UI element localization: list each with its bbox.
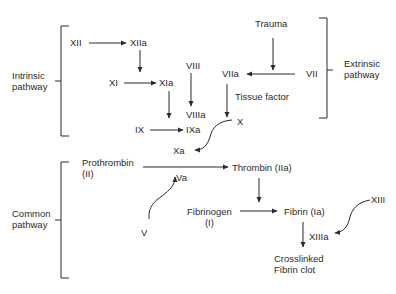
common-bracket bbox=[55, 162, 69, 278]
node-fibrin: Fibrin (Ia) bbox=[284, 206, 325, 217]
common-pathway-label: Common pathway bbox=[12, 208, 51, 230]
node-crosslinked-fibrin-clot: Crosslinked Fibrin clot bbox=[274, 253, 324, 275]
node-viii: VIII bbox=[186, 60, 200, 71]
node-fibrinogen: Fibrinogen (I) bbox=[187, 206, 232, 228]
node-trauma: Trauma bbox=[255, 18, 287, 29]
node-viiia: VIIIa bbox=[186, 109, 206, 120]
node-xii: XII bbox=[70, 37, 82, 48]
node-xiii: XIII bbox=[371, 194, 385, 205]
node-tissue-factor: Tissue factor bbox=[235, 91, 289, 102]
node-viia: VIIa bbox=[222, 68, 239, 79]
node-xa: Xa bbox=[173, 145, 185, 156]
diagram-connectors bbox=[0, 0, 396, 294]
extrinsic-bracket bbox=[319, 18, 333, 118]
intrinsic-bracket bbox=[55, 26, 69, 136]
node-ix: IX bbox=[135, 124, 144, 135]
node-prothrombin: Prothrombin (II) bbox=[82, 157, 134, 179]
node-x: X bbox=[237, 116, 243, 127]
node-ixa: IXa bbox=[186, 124, 200, 135]
node-thrombin: Thrombin (IIa) bbox=[232, 162, 292, 173]
node-xiiia: XIIIa bbox=[309, 231, 329, 242]
node-xiia: XIIa bbox=[130, 37, 147, 48]
node-xi: XI bbox=[109, 77, 118, 88]
intrinsic-pathway-label: Intrinsic pathway bbox=[12, 70, 47, 92]
extrinsic-pathway-label: Extrinsic pathway bbox=[344, 58, 380, 80]
node-va: Va bbox=[176, 172, 187, 183]
node-xia: XIa bbox=[159, 77, 173, 88]
node-v: V bbox=[141, 227, 147, 238]
node-vii: VII bbox=[306, 68, 318, 79]
